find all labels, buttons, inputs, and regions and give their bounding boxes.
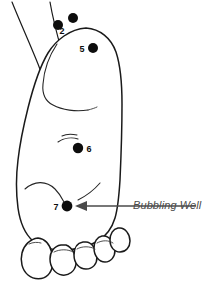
point-2-label: 2: [59, 26, 64, 36]
point-7-label: 7: [53, 202, 58, 212]
point-6-label: 6: [86, 144, 91, 154]
foot-acupressure-diagram: 2 5 6 7 Bubbling Well: [0, 0, 205, 295]
foot-sole-group: [17, 28, 123, 250]
point-7-dot[interactable]: [62, 201, 73, 212]
toe-big: [21, 238, 53, 279]
point-2-dot-b[interactable]: [68, 13, 78, 23]
point-6-dot[interactable]: [73, 143, 83, 153]
foot-sole-outline: [17, 28, 123, 250]
point-5-label: 5: [79, 44, 84, 54]
point-5-dot[interactable]: [88, 43, 98, 53]
toe-little: [110, 228, 130, 252]
bubbling-well-callout-label: Bubbling Well: [133, 199, 201, 211]
foot-illustration: 2 5 6 7: [0, 0, 205, 295]
